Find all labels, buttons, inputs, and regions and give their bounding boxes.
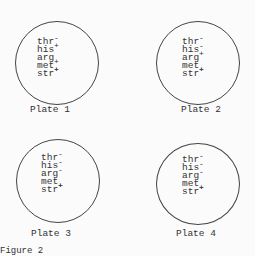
- minus-marker: -: [58, 166, 63, 174]
- plate-4-genotype: thr- his- arg- met+ str+: [182, 156, 199, 196]
- gene-str: str+: [182, 70, 199, 78]
- plus-marker: +: [199, 184, 204, 192]
- plate-3-label: Plate 3: [31, 228, 71, 239]
- gene-str: str+: [41, 186, 58, 194]
- plus-marker: +: [199, 50, 204, 58]
- plate-2-genotype: thr- his- arg+ met+ str+: [182, 38, 199, 78]
- plus-marker: +: [54, 66, 59, 74]
- minus-marker: -: [199, 168, 204, 176]
- gene-str: str+: [37, 70, 54, 78]
- plate-3-genotype: thr- his- arg- met+ str+: [41, 154, 58, 194]
- plate-1-label: Plate 1: [30, 104, 70, 115]
- plus-marker: +: [58, 182, 63, 190]
- figure-caption: Figure 2: [0, 246, 43, 256]
- gene-str: str+: [182, 188, 199, 196]
- plate-1-genotype: thr- his+ arg+ met+ str+: [37, 38, 54, 78]
- plus-marker: +: [199, 66, 204, 74]
- plate-4-label: Plate 4: [176, 228, 216, 239]
- plate-2-label: Plate 2: [181, 104, 221, 115]
- plus-marker: +: [54, 42, 59, 50]
